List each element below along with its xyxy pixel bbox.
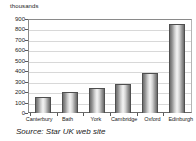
bar[interactable] [169,24,185,113]
x-category-label: Oxford [138,116,166,123]
x-category-label: Bath [53,116,81,123]
y-tick-label: 600 [1,47,25,53]
y-axis-unit-label: thousands [10,3,39,10]
bar-slot [137,19,164,113]
y-tick-label: 0 [1,110,25,116]
x-axis-category-labels: CanterburyBathYorkCambridgeOxfordEdinbur… [24,116,196,123]
bar[interactable] [62,92,78,113]
bars-layer [28,19,192,113]
x-category-label: Edinburgh [167,116,195,123]
x-category-label: York [82,116,110,123]
x-category-label: Cambridge [110,116,138,123]
y-tick-label: 800 [1,26,25,32]
bar-slot [83,19,110,113]
bar-chart-figure: thousands 9008007006005004003002001000 C… [0,0,196,141]
y-tick-label: 300 [1,79,25,85]
y-tick-label: 400 [1,68,25,74]
y-tick-label: 500 [1,58,25,64]
y-tick-label: 200 [1,89,25,95]
y-tick-label: 900 [1,16,25,22]
bar[interactable] [35,97,51,113]
bar-slot [30,19,57,113]
bar-slot [57,19,84,113]
bar-slot [110,19,137,113]
y-tick-label: 700 [1,37,25,43]
bar[interactable] [89,88,105,113]
bar[interactable] [142,73,158,113]
source-caption: Source: Star UK web site [16,127,105,137]
x-category-label: Canterbury [25,116,53,123]
bar-slot [163,19,190,113]
y-tick-label: 100 [1,100,25,106]
bar[interactable] [115,84,131,113]
